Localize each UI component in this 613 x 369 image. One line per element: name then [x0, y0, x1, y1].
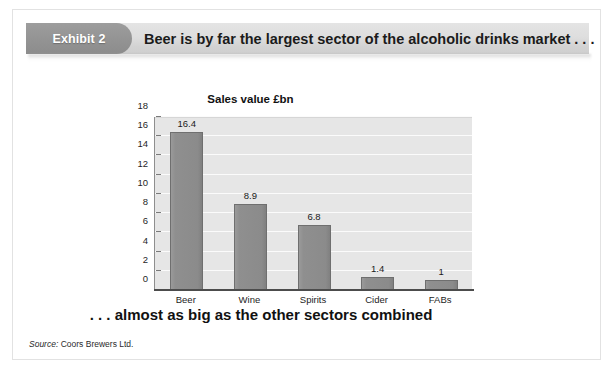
x-axis-label-cider: Cider: [347, 294, 407, 305]
y-axis-tick: [156, 212, 161, 213]
y-axis-tick: [156, 135, 161, 136]
y-axis-tick-label: 12: [126, 158, 148, 169]
bar-value-label: 1.4: [354, 263, 402, 274]
bar-value-label: 1: [417, 266, 465, 277]
y-axis-tick-label: 14: [126, 138, 148, 149]
y-axis-tick-label: 10: [126, 177, 148, 188]
y-axis-tick: [156, 116, 161, 117]
y-axis-tick-label: 8: [126, 196, 148, 207]
exhibit-headline: Beer is by far the largest sector of the…: [144, 23, 594, 54]
exhibit-badge: Exhibit 2: [26, 23, 132, 54]
bar-beer[interactable]: [170, 132, 203, 290]
y-axis-tick-label: 4: [126, 235, 148, 246]
bar-value-label: 8.9: [226, 190, 274, 201]
y-axis-tick-labels: 024681012141618: [124, 117, 148, 290]
plot-area: 16.48.96.81.41: [154, 117, 472, 290]
x-axis-label-wine: Wine: [219, 294, 279, 305]
y-axis-tick: [156, 251, 161, 252]
y-axis-tick: [156, 270, 161, 271]
x-axis-label-fabs: FABs: [410, 294, 470, 305]
gridline: [155, 116, 472, 117]
y-axis-tick: [156, 154, 161, 155]
bar-spirits[interactable]: [298, 225, 331, 290]
y-axis-tick-label: 6: [126, 215, 148, 226]
exhibit-banner: Exhibit 2 Beer is by far the largest sec…: [26, 23, 589, 54]
x-axis-label-spirits: Spirits: [283, 294, 343, 305]
exhibit-card: Exhibit 2 Beer is by far the largest sec…: [12, 9, 601, 360]
y-axis-tick: [156, 174, 161, 175]
y-axis-tick-label: 0: [126, 273, 148, 284]
bar-wine[interactable]: [234, 204, 267, 290]
source-label: Source:: [29, 339, 58, 349]
y-axis-tick-label: 16: [126, 119, 148, 130]
chart-container: Sales value £bn 024681012141618 16.48.96…: [26, 80, 589, 320]
exhibit-caption: . . . almost as big as the other sectors…: [26, 306, 496, 323]
x-axis-label-beer: Beer: [156, 294, 216, 305]
x-axis-line: [154, 289, 474, 291]
chart-title: Sales value £bn: [26, 93, 475, 105]
y-axis-tick-label: 18: [126, 100, 148, 111]
exhibit-badge-label: Exhibit 2: [53, 32, 106, 46]
bar-cider[interactable]: [361, 277, 394, 290]
source-text: Coors Brewers Ltd.: [61, 339, 134, 349]
source-note: Source: Coors Brewers Ltd.: [29, 339, 133, 349]
bar-value-label: 6.8: [290, 211, 338, 222]
y-axis-tick: [156, 193, 161, 194]
y-axis-tick: [156, 231, 161, 232]
banner-shadow: [28, 54, 591, 61]
bar-value-label: 16.4: [163, 118, 211, 129]
y-axis-tick-label: 2: [126, 254, 148, 265]
y-axis-line: [154, 117, 155, 290]
